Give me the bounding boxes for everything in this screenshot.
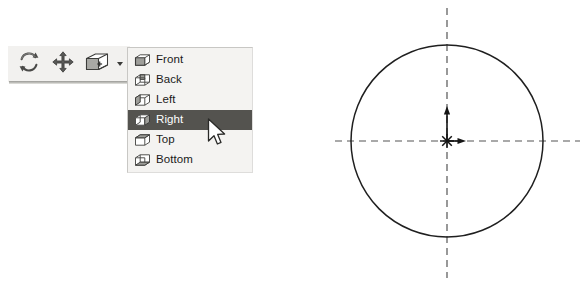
view-orientation-button[interactable] [80, 49, 114, 79]
pan-view-button[interactable] [46, 49, 80, 79]
toolbar-separator [9, 81, 130, 84]
menu-item-top[interactable]: Top [128, 130, 252, 150]
cube-right-icon [133, 112, 151, 128]
view-orientation-menu: Front Back Left [127, 47, 253, 173]
cube-back-icon [133, 72, 151, 88]
menu-item-front[interactable]: Front [128, 50, 252, 70]
view-orientation-cube-icon [84, 51, 110, 77]
circle-sketch [330, 0, 583, 286]
menu-item-right[interactable]: Right [128, 110, 252, 130]
pan-view-icon [52, 51, 74, 77]
menu-item-bottom[interactable]: Bottom [128, 150, 252, 170]
chevron-down-icon [117, 62, 123, 66]
cube-left-icon [133, 92, 151, 108]
cube-front-icon [133, 52, 151, 68]
rotate-view-button[interactable] [12, 49, 46, 79]
menu-item-label: Back [156, 74, 182, 86]
cube-top-icon [133, 132, 151, 148]
rotate-view-icon [17, 51, 41, 77]
menu-item-label: Right [156, 114, 183, 126]
menu-item-label: Bottom [156, 154, 193, 166]
menu-item-label: Top [156, 134, 175, 146]
menu-item-label: Left [156, 94, 176, 106]
view-orientation-dropdown-arrow[interactable] [114, 49, 126, 79]
view-toolbar [8, 46, 130, 82]
cube-bottom-icon [133, 152, 151, 168]
menu-item-label: Front [156, 54, 183, 66]
origin-star-icon [440, 134, 454, 148]
menu-item-left[interactable]: Left [128, 90, 252, 110]
menu-item-back[interactable]: Back [128, 70, 252, 90]
